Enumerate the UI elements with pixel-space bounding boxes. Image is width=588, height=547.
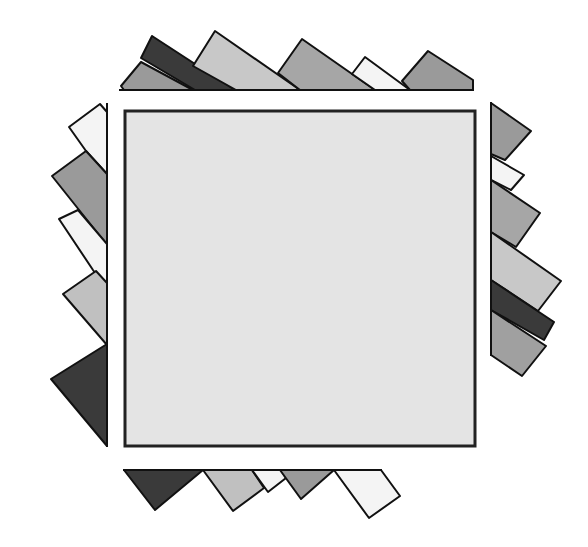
bottom-mid-triangle	[280, 470, 334, 499]
left-dark-triangle	[51, 344, 107, 446]
top-gray-pentagon	[402, 51, 473, 90]
bottom-light-quad	[203, 470, 264, 511]
diagram-svg	[0, 0, 588, 547]
bottom-white-pentagon	[334, 470, 400, 518]
right-strip	[491, 103, 561, 376]
left-strip	[51, 104, 107, 446]
bottom-strip	[124, 470, 400, 518]
right-gray-triangle	[491, 103, 531, 160]
quilt-border-diagram	[0, 0, 588, 547]
left-light-quad	[63, 271, 107, 345]
bottom-dark-triangle	[124, 470, 203, 510]
top-strip	[121, 31, 473, 90]
center-square	[125, 111, 475, 446]
